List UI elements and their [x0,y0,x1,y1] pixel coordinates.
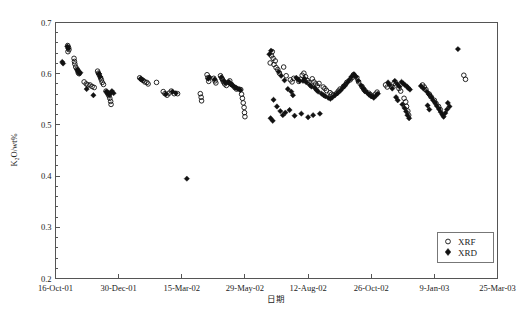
x-tick-label: 26-Oct-02 [354,283,389,293]
y-tick-label: 0.4 [41,171,52,181]
x-tick-label: 9-Jan-03 [419,283,449,293]
chart-figure: 0.20.30.40.50.60.7 16-Oct-0130-Dec-0115-… [0,0,517,314]
x-axis-title: 日期 [267,294,285,304]
chart-background [0,0,517,314]
chart-legend: XRF XRD [437,232,493,262]
legend-label-xrd: XRD [458,248,478,258]
x-tick-label: 29-May-02 [226,283,264,293]
y-tick-label: 0.5 [41,120,52,130]
x-tick-label: 15-Mar-02 [163,283,200,293]
x-tick-label: 16-Oct-01 [38,283,73,293]
legend-label-xrf: XRF [458,237,476,247]
x-tick-label: 12-Aug-02 [289,283,326,293]
y-axis-title: K₂O/wt% [9,133,19,166]
x-tick-label: 25-Mar-03 [479,283,516,293]
y-tick-label: 0.7 [41,18,52,28]
scatter-chart: 0.20.30.40.50.60.7 16-Oct-0130-Dec-0115-… [0,0,517,314]
y-tick-label: 0.3 [41,222,52,232]
y-tick-label: 0.6 [41,69,52,79]
x-tick-label: 30-Dec-01 [100,283,136,293]
